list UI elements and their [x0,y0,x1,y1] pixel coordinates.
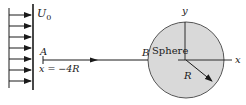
uniform-flow-arrows [9,8,31,88]
point-a-label: A [39,46,47,57]
point-b-label: B [141,47,149,58]
sphere-label: Sphere [152,45,188,56]
velocity-label: U0 [37,7,51,22]
point-a-position-label: x = −4R [39,63,80,74]
streamline-arrow-icon [90,58,98,63]
radius-label: R [183,70,192,81]
flow-diagram: U0 A x = −4R B Sphere R y x [0,0,246,105]
x-axis-label: x [235,54,241,65]
y-axis-label: y [181,5,188,16]
